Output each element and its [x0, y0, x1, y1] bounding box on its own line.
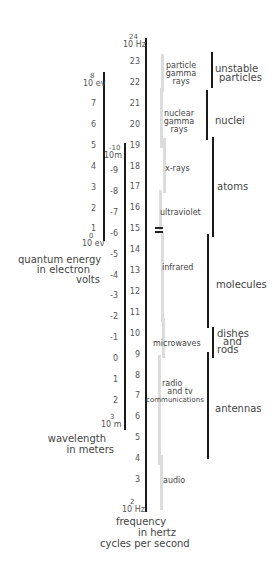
source-label-dishes-rods: dishes and rods [217, 330, 249, 354]
band-label-ultraviolet: ultraviolet [160, 209, 201, 217]
frequency-tick: 8 [128, 372, 140, 380]
energy-axis-line [103, 72, 105, 241]
frequency-axis-title: frequency in hertz cycles per second [108, 516, 188, 549]
bracket-molecules [207, 234, 209, 328]
wavelength-tick: -4 [104, 272, 118, 280]
frequency-tick: 14 [128, 246, 140, 254]
wavelength-axis-line [124, 143, 126, 430]
wavelength-axis-title: wavelength in meters [46, 433, 114, 455]
frequency-tick: 7 [128, 392, 140, 400]
band-label-radio-tv: radio and tv communications [142, 380, 208, 404]
frequency-tick: 21 [128, 100, 140, 108]
wavelength-tick: 1 [104, 376, 118, 384]
energy-bottom-label: 0 10 ev [82, 240, 104, 248]
energy-axis-title: quantum energy in electron volts [18, 255, 100, 285]
energy-tick: 2 [84, 205, 96, 213]
bracket-dishes-rods [212, 327, 214, 358]
source-label-nuclei: nuclei [215, 116, 245, 126]
band-bar-microwaves [162, 318, 165, 358]
wavelength-tick: -9 [104, 167, 118, 175]
wavelength-tick: -8 [104, 188, 118, 196]
band-bar-infrared [161, 232, 164, 322]
energy-top-label: 8 10 ev [83, 80, 105, 88]
band-label-microwaves: microwaves [153, 340, 201, 348]
frequency-tick: 12 [128, 288, 140, 296]
source-label-antennas: antennas [215, 404, 262, 414]
frequency-tick: 18 [128, 163, 140, 171]
energy-tick: 7 [84, 100, 96, 108]
frequency-tick: 13 [128, 267, 140, 275]
wavelength-tick: 2 [104, 397, 118, 405]
frequency-tick: 4 [128, 455, 140, 463]
frequency-axis-line [145, 38, 147, 512]
energy-tick: 5 [84, 142, 96, 150]
band-label-audio: audio [163, 477, 185, 485]
frequency-tick: 9 [128, 351, 140, 359]
band-label-particle-gamma: particle gamma rays [163, 62, 199, 86]
frequency-tick: 15 [128, 225, 140, 233]
frequency-tick: 22 [128, 79, 140, 87]
band-label-infrared: infrared [162, 264, 193, 272]
visible-light-marker [155, 227, 163, 233]
wavelength-tick: -2 [104, 313, 118, 321]
wavelength-tick: 0 [104, 355, 118, 363]
energy-tick: 3 [84, 184, 96, 192]
frequency-tick: 23 [128, 58, 140, 66]
wavelength-tick: -5 [104, 251, 118, 259]
frequency-tick: 5 [128, 434, 140, 442]
band-label-nuclear-gamma: nuclear gamma rays [161, 110, 197, 134]
bracket-atoms [212, 137, 214, 237]
frequency-top-label: 24 10 Hz [123, 41, 146, 49]
frequency-tick: 3 [128, 476, 140, 484]
wavelength-top-label: -10 10m [104, 152, 122, 160]
band-label-x-rays: x-rays [165, 165, 190, 173]
energy-tick: 4 [84, 163, 96, 171]
bracket-unstable-particles [211, 52, 213, 88]
wavelength-tick: -1 [104, 334, 118, 342]
frequency-tick: 11 [128, 309, 140, 317]
frequency-tick: 20 [128, 121, 140, 129]
source-label-atoms: atoms [217, 182, 248, 192]
wavelength-tick: -6 [104, 230, 118, 238]
wavelength-tick: -3 [104, 292, 118, 300]
band-bar-radio [158, 355, 161, 465]
wavelength-tick: -7 [104, 209, 118, 217]
source-label-unstable-particles: unstable particles [215, 64, 262, 82]
frequency-tick: 10 [128, 330, 140, 338]
frequency-bottom-label: 2 10 Hz [122, 506, 145, 514]
source-label-molecules: molecules [216, 280, 267, 290]
frequency-tick: 19 [128, 142, 140, 150]
frequency-tick: 16 [128, 204, 140, 212]
bracket-nuclei [206, 90, 208, 140]
energy-tick: 6 [84, 121, 96, 129]
wavelength-bottom-label: 3 10 m [101, 421, 122, 429]
frequency-tick: 17 [128, 183, 140, 191]
bracket-antennas [207, 352, 209, 459]
frequency-tick: 6 [128, 413, 140, 421]
